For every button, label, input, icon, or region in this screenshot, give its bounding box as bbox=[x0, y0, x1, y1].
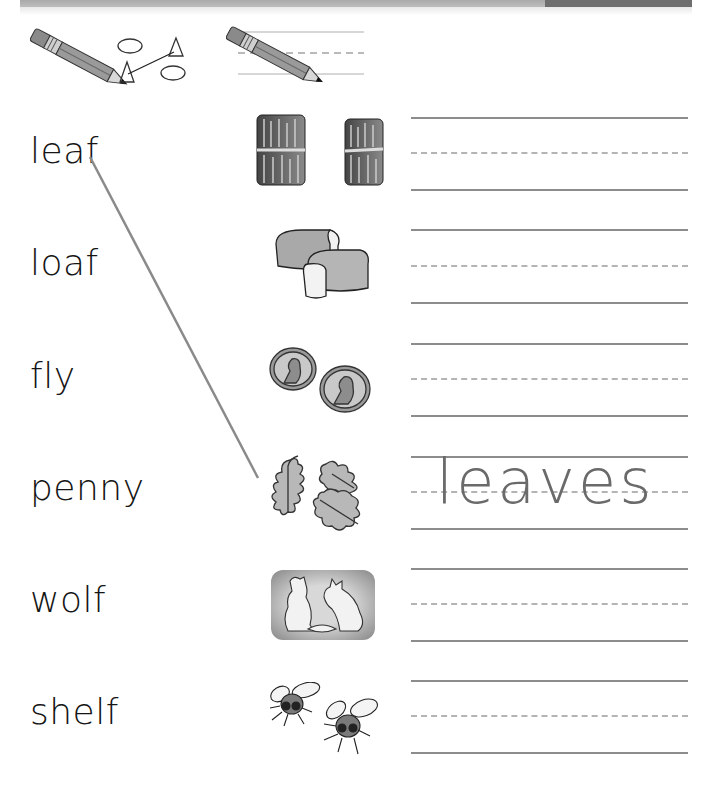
writing-row-2[interactable] bbox=[411, 229, 688, 303]
writing-row-6[interactable] bbox=[411, 680, 688, 754]
pennies-picture[interactable] bbox=[268, 341, 378, 416]
flies-picture[interactable] bbox=[268, 682, 380, 762]
loaves-picture[interactable] bbox=[272, 224, 377, 304]
writing-row-1[interactable] bbox=[411, 117, 688, 191]
writing-row-5[interactable] bbox=[411, 568, 688, 642]
shelves-picture[interactable] bbox=[255, 113, 387, 188]
writing-row-3[interactable] bbox=[411, 343, 688, 417]
example-written-answer: leaves bbox=[436, 451, 655, 513]
leaves-picture[interactable] bbox=[268, 452, 380, 534]
wolves-picture[interactable] bbox=[270, 569, 376, 641]
